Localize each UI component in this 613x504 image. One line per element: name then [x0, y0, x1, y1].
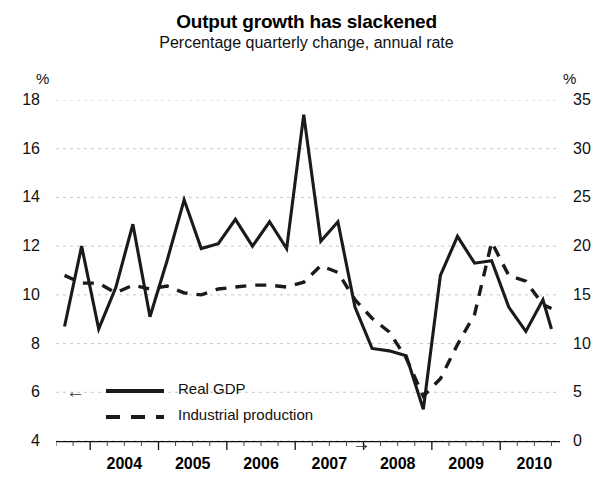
right-axis-tick-25: 25	[573, 189, 613, 205]
left-axis-tick-18: 18	[0, 92, 40, 108]
left-axis-unit: %	[36, 70, 49, 87]
x-axis-tick-2008: 2008	[380, 455, 416, 473]
left-axis-tick-14: 14	[0, 189, 40, 205]
series-line-industrial-production	[65, 242, 552, 396]
x-axis	[56, 441, 566, 457]
x-axis-tick-2005: 2005	[175, 455, 211, 473]
x-axis-tick-2009: 2009	[448, 455, 484, 473]
left-axis-tick-10: 10	[0, 287, 40, 303]
title-block: Output growth has slackened Percentage q…	[0, 10, 613, 53]
chart-title: Output growth has slackened	[0, 10, 613, 33]
right-axis-tick-35: 35	[573, 92, 613, 108]
legend-label-industrial-production: Industrial production	[178, 406, 313, 423]
chart-subtitle: Percentage quarterly change, annual rate	[0, 33, 613, 53]
right-axis-tick-20: 20	[573, 238, 613, 254]
left-axis-tick-6: 6	[0, 384, 40, 400]
x-axis-tick-2006: 2006	[243, 455, 279, 473]
x-axis-tick-2007: 2007	[312, 455, 348, 473]
left-axis-tick-8: 8	[0, 336, 40, 352]
x-axis-tick-2004: 2004	[107, 455, 143, 473]
right-axis-tick-15: 15	[573, 287, 613, 303]
legend-item-industrial-production: Industrial production →	[66, 404, 396, 430]
x-axis-tick-2010: 2010	[517, 455, 553, 473]
right-axis-arrow-icon: →	[352, 434, 371, 453]
legend-swatch-solid	[106, 389, 164, 393]
right-axis-unit: %	[563, 70, 576, 87]
right-axis-tick-5: 5	[573, 384, 613, 400]
chart-container: Output growth has slackened Percentage q…	[0, 0, 613, 504]
legend-label-real-gdp: Real GDP	[178, 380, 246, 397]
left-axis-tick-16: 16	[0, 141, 40, 157]
left-axis-tick-4: 4	[0, 433, 40, 449]
right-axis-tick-0: 0	[573, 433, 613, 449]
left-axis-arrow-icon: ←	[66, 382, 85, 401]
right-axis-tick-30: 30	[573, 141, 613, 157]
left-axis-tick-12: 12	[0, 238, 40, 254]
chart-legend: ← Real GDP Industrial production →	[66, 378, 396, 430]
legend-swatch-dashed	[106, 415, 164, 419]
legend-item-real-gdp: ← Real GDP	[66, 378, 396, 404]
series-line-real-gdp	[65, 115, 552, 410]
right-axis-tick-10: 10	[573, 336, 613, 352]
